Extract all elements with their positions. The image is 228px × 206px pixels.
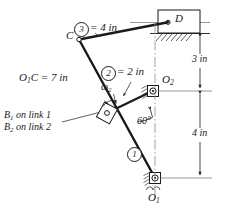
fixed-pivot-o2 (142, 86, 159, 99)
label-o1-subscript: 1 (156, 196, 160, 205)
label-omega2-symbol: ω (101, 81, 108, 92)
link-3-number-badge: 3 (74, 22, 89, 37)
pin-joint-c (77, 37, 81, 41)
mechanism-diagram-canvas: C 3 = 4 in D O1C = 7 in 2 = 2 in ω2 O2 B… (0, 0, 228, 206)
label-pivot-o1: O1 (148, 192, 160, 204)
label-b1-on-link1: B1 on link 1 (4, 110, 51, 121)
label-angle-60: 60° (137, 116, 151, 126)
label-dimension-4in: 4 in (192, 128, 207, 138)
label-omega2-subscript: 2 (108, 86, 111, 93)
link-2-number-badge: 2 (101, 66, 116, 81)
label-b2-rest: on link 2 (14, 121, 52, 132)
label-point-d: D (175, 13, 183, 24)
pivot-o1-hatch-icon (144, 173, 150, 186)
label-b2-on-link2: B2 on link 2 (4, 122, 51, 133)
label-o1c-main: O (19, 71, 27, 83)
pivot-o1-support-icon (147, 187, 160, 190)
label-b1-rest: on link 1 (14, 109, 52, 120)
label-o2-subscript: 2 (170, 78, 174, 87)
fixed-pivot-o1 (144, 173, 161, 191)
label-o1-main: O (148, 191, 156, 203)
label-pivot-o2: O2 (162, 74, 174, 86)
label-o1c-rest: C = 7 in (31, 71, 68, 83)
ground-hatch-icon (156, 34, 192, 41)
leader-lines (62, 33, 131, 122)
label-link2-length: = 2 in (117, 66, 144, 77)
label-omega2: ω2 (101, 82, 111, 93)
label-o1c-length: O1C = 7 in (19, 72, 68, 84)
link-1-number-badge: 1 (127, 147, 142, 162)
label-link3-length: = 4 in (90, 22, 117, 33)
label-o2-main: O (162, 73, 170, 85)
label-point-c: C (66, 30, 73, 41)
label-dimension-3in: 3 in (192, 54, 207, 64)
